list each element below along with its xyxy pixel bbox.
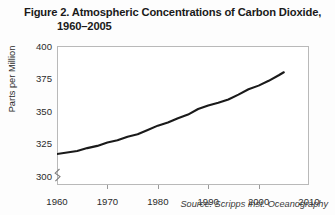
x-tick-label-1960: 1960 [37,196,77,207]
y-tick-label-400: 400 [6,41,52,52]
figure-title-line-1: Figure 2. Atmospheric Concentrations of … [24,6,324,20]
plot-area [57,46,309,185]
y-tick-label-300: 300 [6,170,52,181]
y-tick-label-350: 350 [6,105,52,116]
x-tick-mark-1990 [208,185,209,189]
x-tick-label-1980: 1980 [138,196,178,207]
y-axis-break-icon [52,168,64,184]
y-tick-label-325: 325 [6,138,52,149]
figure-title: Figure 2. Atmospheric Concentrations of … [24,6,324,33]
y-axis-tick-labels: 300325350375400 [0,0,52,215]
figure-title-line-2: 1960–2005 [24,20,324,34]
figure-carbon-dioxide-chart: Figure 2. Atmospheric Concentrations of … [0,0,335,215]
x-tick-mark-1980 [158,185,159,189]
x-tick-mark-1970 [107,185,108,189]
source-note: Source: Scripps Inst. Oceanography [180,199,328,209]
co2-line-series [57,46,309,185]
x-tick-label-1970: 1970 [87,196,127,207]
y-tick-label-375: 375 [6,73,52,84]
x-tick-mark-2000 [259,185,260,189]
co2-line-path [57,72,284,154]
